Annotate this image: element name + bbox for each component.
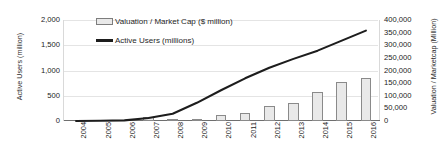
line-swatch-icon — [96, 39, 113, 42]
x-tick-2011: 2011 — [249, 122, 258, 138]
y-tick-right: 400,000 — [384, 16, 430, 24]
chart-legend: Valuation / Market Cap ($ million) Activ… — [96, 14, 233, 52]
y-tick-right: 350,000 — [384, 29, 430, 37]
y-tick-left: 2,000 — [14, 16, 60, 24]
y-tick-right: 50,000 — [384, 104, 430, 112]
y-tick-right: 0 — [384, 117, 430, 125]
legend-label-valuation: Valuation / Market Cap ($ million) — [115, 17, 233, 26]
x-tick-2008: 2008 — [176, 122, 185, 138]
x-tick-2005: 2005 — [104, 122, 113, 138]
y-axis-right-ticks: 050,000100,000150,000200,000250,000300,0… — [384, 0, 430, 164]
y-tick-right: 100,000 — [384, 92, 430, 100]
legend-item-valuation: Valuation / Market Cap ($ million) — [96, 14, 233, 28]
x-tick-2016: 2016 — [369, 122, 378, 138]
x-tick-2004: 2004 — [79, 122, 88, 138]
legend-item-active-users: Active Users (millions) — [96, 33, 233, 47]
legend-label-active-users: Active Users (millions) — [115, 36, 194, 45]
y-tick-left: 1,500 — [14, 41, 60, 49]
x-axis-ticks: 2004200520062007200820092010201120122013… — [64, 122, 378, 164]
x-tick-2009: 2009 — [200, 122, 209, 138]
axis-right-spine — [379, 20, 380, 121]
x-tick-2013: 2013 — [297, 122, 306, 138]
y-tick-right: 150,000 — [384, 79, 430, 87]
y-tick-right: 300,000 — [384, 41, 430, 49]
y-tick-right: 200,000 — [384, 67, 430, 75]
x-tick-2012: 2012 — [273, 122, 282, 138]
y-tick-right: 250,000 — [384, 54, 430, 62]
x-tick-2014: 2014 — [321, 122, 330, 138]
x-tick-2010: 2010 — [224, 122, 233, 138]
y-tick-left: 0 — [14, 117, 60, 125]
x-tick-2006: 2006 — [128, 122, 137, 138]
y-axis-left-ticks: 05001,0001,5002,000 — [14, 0, 60, 164]
chart-container: Active Users (million) Valuation / Marke… — [0, 0, 448, 164]
x-tick-2015: 2015 — [345, 122, 354, 138]
y-tick-left: 1,000 — [14, 67, 60, 75]
bar-swatch-icon — [96, 18, 113, 25]
y-tick-left: 500 — [14, 92, 60, 100]
x-tick-2007: 2007 — [152, 122, 161, 138]
